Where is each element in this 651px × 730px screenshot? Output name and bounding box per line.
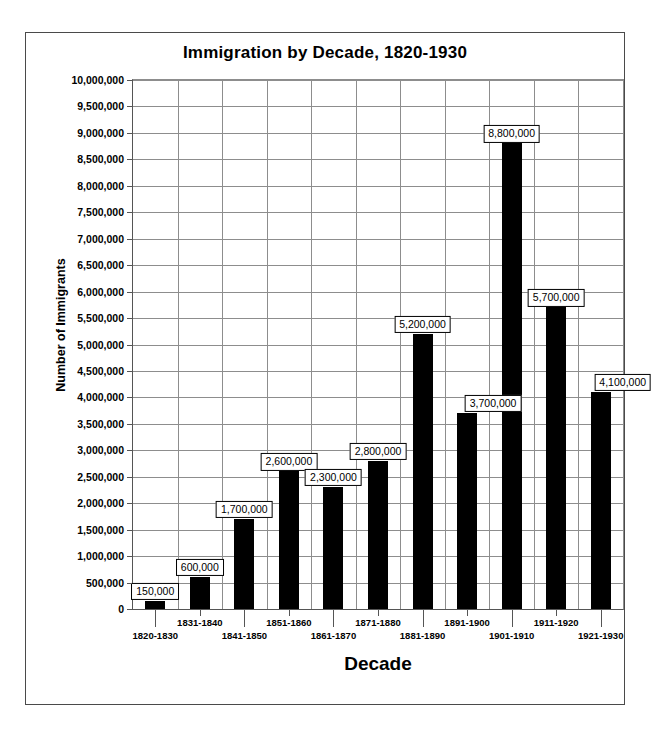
y-tick-label: 9,500,000: [77, 100, 124, 112]
y-tick-mark: [127, 424, 132, 425]
bar-data-label: 1,700,000: [216, 501, 273, 518]
x-tick-label: 1911-1920: [534, 617, 579, 628]
y-tick-label: 2,500,000: [77, 471, 124, 483]
x-gridline: [178, 80, 179, 609]
x-tick-label: 1921-1930: [578, 630, 623, 641]
y-tick-mark: [127, 239, 132, 240]
bar-data-label: 600,000: [176, 559, 224, 576]
x-tick-mark: [333, 609, 334, 627]
y-tick-label: 5,500,000: [77, 312, 124, 324]
x-gridline: [445, 80, 446, 609]
y-axis-title: Number of Immigrants: [54, 235, 68, 415]
y-tick-label: 2,000,000: [77, 497, 124, 509]
x-tick-mark: [289, 609, 290, 616]
y-tick-label: 1,000,000: [77, 550, 124, 562]
x-tick-mark: [244, 609, 245, 627]
y-tick-mark: [127, 583, 132, 584]
bar[interactable]: [546, 307, 566, 609]
x-tick-mark: [378, 609, 379, 616]
y-tick-mark: [127, 265, 132, 266]
y-tick-label: 3,000,000: [77, 444, 124, 456]
y-gridline: [133, 239, 623, 240]
y-gridline: [133, 133, 623, 134]
x-gridline: [400, 80, 401, 609]
x-gridline: [489, 80, 490, 609]
y-tick-mark: [127, 106, 132, 107]
bar[interactable]: [145, 601, 165, 609]
bar[interactable]: [368, 461, 388, 609]
plot-area: 150,000600,0001,700,0002,600,0002,300,00…: [132, 79, 624, 610]
bar[interactable]: [502, 143, 522, 609]
x-gridline: [311, 80, 312, 609]
bar[interactable]: [190, 577, 210, 609]
bar-data-label: 8,800,000: [483, 125, 540, 142]
y-tick-label: 500,000: [86, 577, 124, 589]
x-gridline: [534, 80, 535, 609]
y-tick-mark: [127, 133, 132, 134]
bar-data-label: 2,800,000: [350, 443, 407, 460]
y-tick-label: 5,000,000: [77, 339, 124, 351]
bar-data-label: 5,200,000: [394, 316, 451, 333]
x-tick-mark: [423, 609, 424, 627]
y-gridline: [133, 212, 623, 213]
y-tick-label: 3,500,000: [77, 418, 124, 430]
x-tick-label: 1851-1860: [266, 617, 311, 628]
bar[interactable]: [323, 487, 343, 609]
bar[interactable]: [234, 519, 254, 609]
y-tick-mark: [127, 477, 132, 478]
x-axis-title: Decade: [132, 653, 624, 675]
bar[interactable]: [279, 471, 299, 609]
y-tick-mark: [127, 503, 132, 504]
bar[interactable]: [591, 392, 611, 609]
bar-data-label: 2,600,000: [261, 453, 318, 470]
y-gridline: [133, 265, 623, 266]
y-tick-mark: [127, 292, 132, 293]
y-tick-mark: [127, 186, 132, 187]
bar-data-label: 150,000: [131, 583, 179, 600]
bar-data-label: 4,100,000: [594, 374, 651, 391]
y-tick-label: 4,500,000: [77, 365, 124, 377]
x-tick-mark: [556, 609, 557, 616]
y-tick-mark: [127, 556, 132, 557]
y-tick-mark: [127, 318, 132, 319]
y-tick-mark: [127, 450, 132, 451]
x-gridline: [267, 80, 268, 609]
y-tick-mark: [127, 212, 132, 213]
y-tick-label: 1,500,000: [77, 524, 124, 536]
chart-frame: Immigration by Decade, 1820-1930 Number …: [25, 32, 625, 705]
x-tick-label: 1831-1840: [177, 617, 222, 628]
y-tick-label: 4,000,000: [77, 391, 124, 403]
y-tick-label: 7,000,000: [77, 233, 124, 245]
x-tick-label: 1820-1830: [133, 630, 178, 641]
y-tick-label: 8,500,000: [77, 153, 124, 165]
y-tick-label: 6,000,000: [77, 286, 124, 298]
chart-title: Immigration by Decade, 1820-1930: [26, 43, 624, 63]
x-gridline: [578, 80, 579, 609]
y-gridline: [133, 159, 623, 160]
x-tick-mark: [512, 609, 513, 627]
y-gridline: [133, 80, 623, 81]
y-tick-mark: [127, 397, 132, 398]
x-tick-mark: [467, 609, 468, 616]
y-tick-label: 10,000,000: [71, 74, 124, 86]
y-tick-label: 9,000,000: [77, 127, 124, 139]
y-tick-label: 7,500,000: [77, 206, 124, 218]
y-tick-mark: [127, 530, 132, 531]
y-tick-mark: [127, 80, 132, 81]
bar[interactable]: [413, 334, 433, 609]
x-tick-mark: [601, 609, 602, 627]
x-gridline: [222, 80, 223, 609]
x-tick-label: 1841-1850: [222, 630, 267, 641]
y-tick-mark: [127, 371, 132, 372]
bar[interactable]: [457, 413, 477, 609]
x-tick-mark: [200, 609, 201, 616]
x-tick-label: 1861-1870: [311, 630, 356, 641]
bar-data-label: 5,700,000: [528, 289, 585, 306]
y-tick-mark: [127, 609, 132, 610]
x-tick-label: 1871-1880: [355, 617, 400, 628]
x-tick-label: 1901-1910: [489, 630, 534, 641]
y-tick-mark: [127, 159, 132, 160]
bar-data-label: 2,300,000: [305, 469, 362, 486]
x-tick-mark: [155, 609, 156, 627]
y-tick-label: 0: [118, 603, 124, 615]
